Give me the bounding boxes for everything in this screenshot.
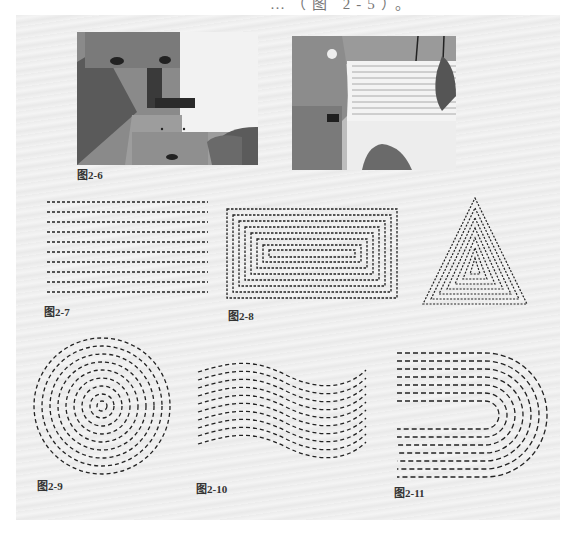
- figure-label-2-8: 图2-8: [228, 307, 254, 323]
- header-partial-text: …（图 2-5）。: [270, 0, 416, 13]
- photo-stitched-fabric: [292, 36, 456, 170]
- figure-label-2-11: 图2-11: [394, 484, 425, 500]
- figure-triangle-concentric: [420, 196, 530, 308]
- figure-label-2-6: 图2-6: [77, 166, 103, 182]
- figure-2-10-wave-lines: [196, 360, 376, 460]
- figure-2-7-parallel-lines: [44, 198, 214, 298]
- figure-label-2-9: 图2-9: [37, 477, 63, 493]
- figure-label-2-7: 图2-7: [44, 303, 70, 319]
- photo-sewing-machine-foot: [77, 32, 258, 165]
- figure-label-2-10: 图2-10: [196, 480, 227, 496]
- figure-2-9-concentric-circles: [32, 336, 172, 476]
- figure-2-8-concentric-rectangles: [226, 208, 401, 303]
- figure-2-11-u-shape-lines: [395, 350, 555, 485]
